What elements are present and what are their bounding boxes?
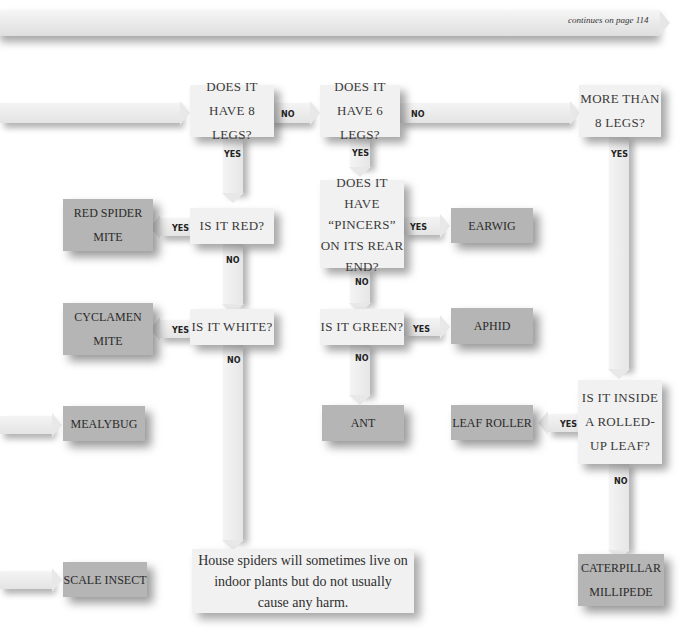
entry-arrow [0,103,180,123]
no-arrow-6legs [400,103,570,123]
yes-label-red: YES [172,224,189,233]
yes-arrow-more8-tip [608,369,630,379]
no-label-white: NO [227,356,241,365]
yes-arrow-more8 [609,137,629,369]
question-is-it-white: IS IT WHITE? [190,309,274,345]
no-arrow-8legs-tip [310,101,320,125]
no-label-green: NO [355,354,369,363]
answer-ant: ANT [322,405,404,441]
no-arrow-red [223,244,243,304]
yes-label-pincers: YES [410,223,427,232]
answer-aphid: APHID [451,308,533,344]
yes-arrow-rolled-tip [538,411,548,435]
house-spider-note: House spiders will sometimes live on ind… [192,549,414,613]
answer-scale-insect: SCALE INSECT [63,562,147,597]
yes-arrow-green-tip [440,315,450,339]
no-arrow-green [350,345,370,395]
arrow-to-mealybug [0,416,52,434]
yes-arrow-pincers-tip [440,214,450,238]
answer-earwig: EARWIG [451,208,533,243]
question-8-legs: DOES IT HAVE 8 LEGS? [190,85,274,137]
answer-caterpillar-millipede: CATERPILLAR MILLIPEDE [578,554,664,606]
yes-label-rolled: YES [560,420,577,429]
answer-cyclamen-mite: CYCLAMEN MITE [63,303,153,355]
entry-arrow-tip [180,101,190,125]
no-label-rolled: NO [614,477,628,486]
continues-label: continues on page 114 [568,15,649,25]
yes-label-white: YES [172,326,189,335]
yes-label-8legs: YES [224,150,241,159]
question-6-legs: DOES IT HAVE 6 LEGS? [320,85,400,137]
question-is-it-red: IS IT RED? [190,208,274,244]
no-arrow-white [223,345,243,540]
question-pincers: DOES IT HAVE “PINCERS” ON ITS REAR END? [320,180,404,268]
answer-leaf-roller: LEAF ROLLER [451,405,533,440]
top-banner-arrow [0,10,660,36]
yes-label-green: YES [413,325,430,334]
arrow-to-scale-insect [0,571,52,589]
question-is-it-green: IS IT GREEN? [320,309,404,345]
question-more-than-8-legs: MORE THAN 8 LEGS? [579,85,661,137]
no-label-8legs: NO [281,110,295,119]
arrow-to-mealybug-tip [52,413,62,437]
answer-mealybug: MEALYBUG [63,406,145,441]
no-arrow-green-tip [349,395,371,405]
yes-label-6legs: YES [352,149,369,158]
no-label-red: NO [226,256,240,265]
yes-label-more8: YES [611,150,628,159]
arrow-to-scale-insect-tip [52,568,62,592]
top-banner-arrow-tip [660,11,670,35]
yes-arrow-8legs-tip [222,193,244,203]
no-label-pincers: NO [355,278,369,287]
question-rolled-up-leaf: IS IT INSIDE A ROLLED-UP LEAF? [578,380,662,464]
answer-red-spider-mite: RED SPIDER MITE [63,199,153,251]
no-label-6legs: NO [411,110,425,119]
